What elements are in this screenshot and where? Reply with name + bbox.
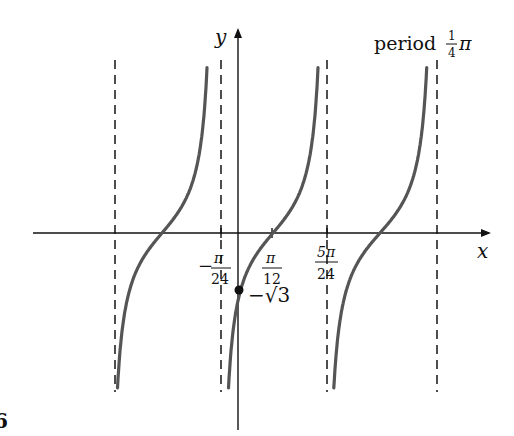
tangent-graph: y x period 1 4 π − π 24 π 12 5π 24 −√3 6 (0, 0, 514, 436)
svg-text:π: π (265, 250, 276, 266)
asymptotes (115, 60, 437, 392)
y-axis-label: y (214, 25, 227, 49)
period-fraction-num: 1 (448, 29, 456, 43)
svg-text:5π: 5π (317, 244, 336, 260)
curve-branch-1 (118, 68, 208, 389)
intercept-label: −√3 (248, 283, 290, 307)
period-pi: π (458, 32, 472, 54)
svg-text:24: 24 (317, 266, 335, 282)
y-intercept-dot (235, 286, 244, 295)
tick-label-neg-pi-24: − π 24 (198, 250, 231, 287)
curve-branch-2 (229, 68, 319, 389)
svg-text:π: π (213, 250, 224, 266)
curve-branch-3 (334, 68, 427, 389)
figure-number-fragment: 6 (0, 409, 8, 433)
svg-text:24: 24 (211, 271, 229, 287)
tick-label-pi-12: π 12 (262, 250, 282, 287)
period-label: period (374, 32, 436, 54)
x-axis-label: x (477, 239, 488, 263)
period-fraction-den: 4 (448, 46, 456, 60)
